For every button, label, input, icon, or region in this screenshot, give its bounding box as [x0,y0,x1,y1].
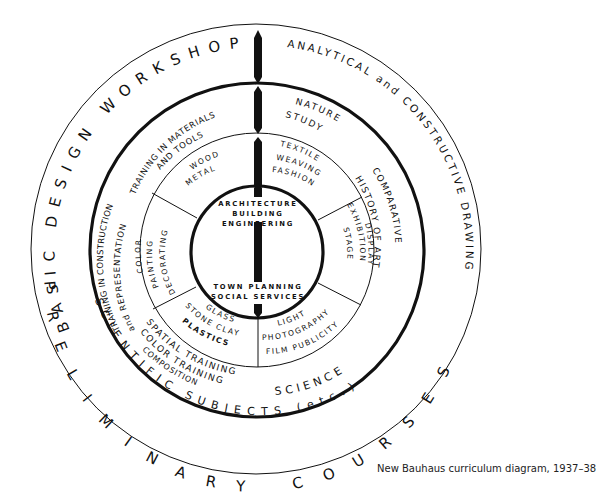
core-building: BUILDING [232,210,283,218]
ws-stage: STAGE [341,226,354,260]
core-social-services: SOCIAL SERVICES [211,293,305,301]
ws-metal: METAL [184,163,218,187]
ws-decorating: DECORATING [158,228,178,297]
ws-color: COLOR [134,238,145,274]
axis-bar-core-center [254,222,262,282]
axis-bar-outer [254,30,262,84]
figure-caption: New Bauhaus curriculum diagram, 1937–38 [377,463,596,474]
axis-bar-middle [254,86,262,134]
core-town-planning: TOWN PLANNING [213,283,302,291]
axis-bar-inner [254,137,262,190]
core-architecture: ARCHITECTURE [218,200,298,208]
core-engineering: ENGINEERING [222,220,294,228]
axis-bars [254,30,262,318]
